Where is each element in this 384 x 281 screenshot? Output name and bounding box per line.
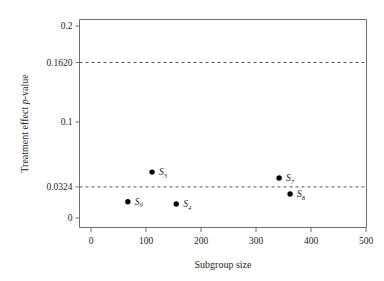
- data-point-S8: [287, 191, 292, 196]
- x-tick-label: 300: [249, 236, 264, 246]
- y-tick-label: 0.1620: [46, 58, 72, 68]
- x-tick-label: 0: [89, 236, 94, 246]
- scatter-plot-figure: 00.03240.10.16200.2 0100200300400500 S9S…: [0, 0, 384, 281]
- data-point-S3: [149, 169, 154, 174]
- y-axis-title: Treatment effect p-value: [19, 74, 30, 173]
- x-axis-title: Subgroup size: [195, 259, 253, 270]
- x-tick-label: 400: [304, 236, 319, 246]
- y-tick-label: 0.0324: [46, 182, 72, 192]
- y-tick-label: 0: [68, 213, 73, 223]
- plot-canvas: 00.03240.10.16200.2 0100200300400500 S9S…: [0, 0, 384, 281]
- data-point-S4: [174, 201, 179, 206]
- data-point-S7: [276, 175, 281, 180]
- x-tick-label: 200: [194, 236, 209, 246]
- y-tick-label: 0.2: [61, 21, 73, 31]
- x-tick-label: 500: [359, 236, 374, 246]
- y-axis-title-text-node: Treatment effect p-value: [19, 74, 30, 173]
- data-point-S9: [125, 199, 130, 204]
- y-tick-label: 0.1: [61, 117, 73, 127]
- x-tick-label: 100: [139, 236, 154, 246]
- plot-background: [0, 0, 384, 281]
